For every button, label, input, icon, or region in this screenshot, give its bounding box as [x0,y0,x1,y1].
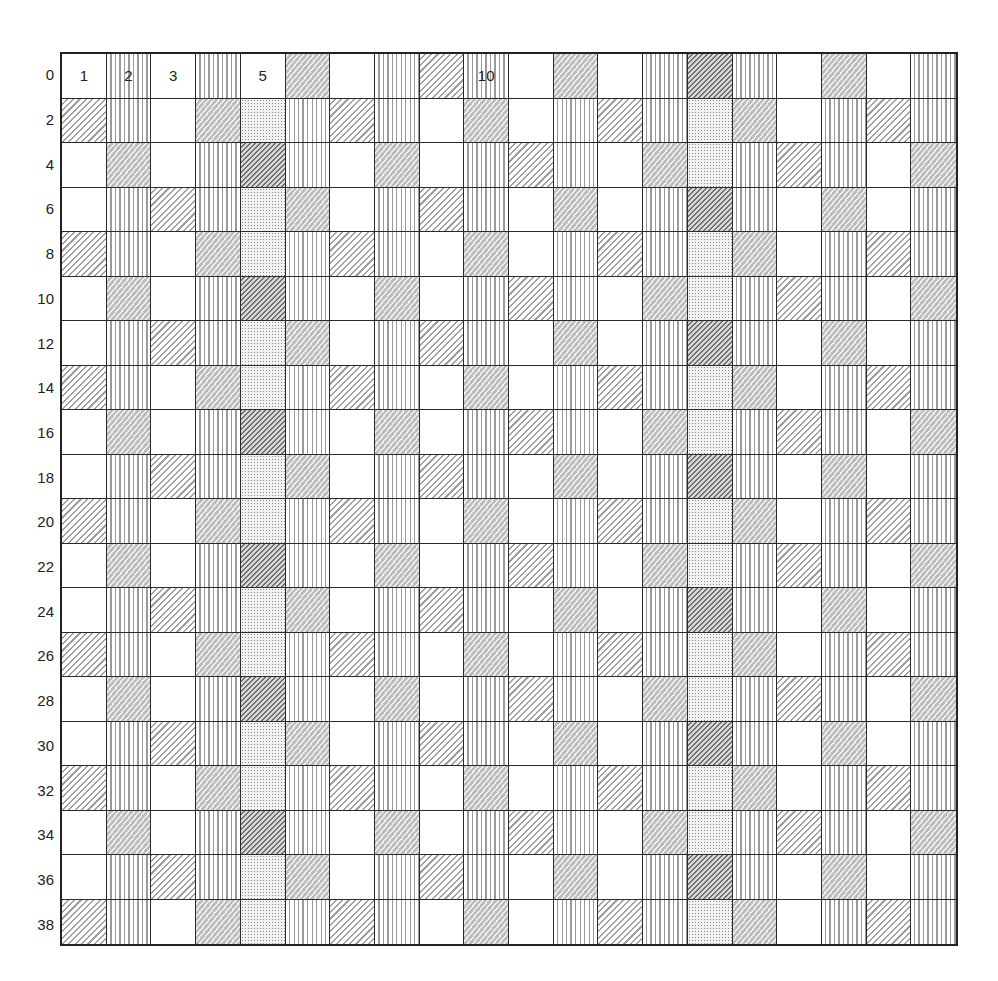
grid-cell-dashed-diagonal-gray [911,277,956,322]
grid-cell-blank [151,99,196,144]
grid-cell-diagonal-lines [330,366,375,411]
grid-cell-blank [777,855,822,900]
grid-cell-dashed-diagonal-gray [464,499,509,544]
grid-cell-vertical-lines [464,544,509,589]
grid-cell-blank [420,811,465,856]
grid-cell-blank [598,588,643,633]
grid-cell-vertical-lines [464,455,509,500]
grid-cell-stipple [688,366,733,411]
grid-cell-blank [867,410,912,455]
grid-cell-vertical-lines [107,366,152,411]
grid-cell-blank [509,722,554,767]
grid-cell-blank [598,855,643,900]
row-label: 28 [0,692,54,709]
grid-cell-blank [867,811,912,856]
grid-cell-dashed-diagonal-gray [733,499,778,544]
grid-cell-dense-diagonal-hatch [688,54,733,99]
grid-cell-vertical-lines [554,633,599,678]
grid-cell-vertical-lines [286,99,331,144]
grid-cell-vertical-lines [643,722,688,767]
grid-cell-vertical-lines [286,766,331,811]
grid-cell-dashed-diagonal-gray [286,855,331,900]
grid-cell-dashed-diagonal-gray [733,766,778,811]
grid-cell-stipple [241,321,286,366]
row-label: 24 [0,602,54,619]
grid-cell-vertical-lines [464,811,509,856]
grid-cell-vertical-lines [911,855,956,900]
grid-cell-diagonal-lines [330,633,375,678]
grid-cell-dashed-diagonal-gray [911,143,956,188]
grid-cell-vertical-lines [911,232,956,277]
grid-cell-blank [777,900,822,945]
grid-cell-dashed-diagonal-gray [196,633,241,678]
grid-cell-blank [867,455,912,500]
grid-cell-dashed-diagonal-gray [196,499,241,544]
grid-cell-dashed-diagonal-gray [196,766,241,811]
grid-cell-stipple [688,410,733,455]
grid-cell-vertical-lines [554,99,599,144]
grid-cell-dense-diagonal-hatch [241,277,286,322]
grid-cell-dashed-diagonal-gray [286,722,331,767]
grid-cell-diagonal-lines [777,410,822,455]
grid-cell-diagonal-lines [867,366,912,411]
grid-cell-blank [420,499,465,544]
grid-cell-blank [598,544,643,589]
grid-cell-blank [867,277,912,322]
grid-cell-diagonal-lines [420,855,465,900]
grid-cell-diagonal-lines [777,143,822,188]
grid-cell-diagonal-lines [509,277,554,322]
grid-cell-dashed-diagonal-gray [286,188,331,233]
grid-cell-stipple [688,143,733,188]
grid-cell-blank: 5 [241,54,286,99]
grid-cell-dashed-diagonal-gray [643,277,688,322]
grid-cell-blank [330,855,375,900]
grid-cell-blank [509,499,554,544]
grid-cell-vertical-lines [196,321,241,366]
grid-cell-blank [509,366,554,411]
grid-cell-vertical-lines [643,99,688,144]
grid-cell-blank [777,722,822,767]
grid-cell-blank [598,188,643,233]
grid-cell-vertical-lines [643,855,688,900]
grid-cell-dense-diagonal-hatch [688,188,733,233]
grid-cell-blank [867,722,912,767]
grid-cell-dashed-diagonal-gray [643,544,688,589]
grid-cell-vertical-lines [733,455,778,500]
grid-cell-vertical-lines [286,143,331,188]
grid-cell-vertical-lines [822,410,867,455]
grid-cell-vertical-lines [911,499,956,544]
grid-cell-vertical-lines [107,588,152,633]
grid-cell-vertical-lines [196,188,241,233]
row-label: 22 [0,558,54,575]
grid-cell-dashed-diagonal-gray [733,633,778,678]
grid-cell-blank [509,766,554,811]
grid-cell-dashed-diagonal-gray [554,588,599,633]
grid-cell-vertical-lines [375,455,420,500]
grid-cell-dashed-diagonal-gray [375,544,420,589]
grid-cell-dense-diagonal-hatch [688,855,733,900]
row-label: 6 [0,200,54,217]
grid-cell-stipple [241,900,286,945]
grid-cell-dashed-diagonal-gray [643,677,688,722]
grid-cell-vertical-lines [554,900,599,945]
grid-cell-dashed-diagonal-gray [107,143,152,188]
grid-cell-vertical-lines [286,499,331,544]
grid-cell-blank [420,366,465,411]
grid-cell-blank [867,54,912,99]
grid-cell-vertical-lines [196,855,241,900]
grid-cell-blank [330,277,375,322]
grid-cell-dashed-diagonal-gray [196,900,241,945]
grid-cell-vertical-lines [822,633,867,678]
grid-cell-vertical-lines [643,499,688,544]
grid-cell-vertical-lines [822,766,867,811]
grid-cell-blank [151,900,196,945]
grid-cell-vertical-lines [911,588,956,633]
grid-cell-dashed-diagonal-gray [733,900,778,945]
grid-cell-dashed-diagonal-gray [643,410,688,455]
grid-cell-blank [420,410,465,455]
grid-cell-diagonal-lines [509,811,554,856]
grid-cell-diagonal-lines [867,499,912,544]
grid-cell-stipple [688,633,733,678]
grid-cell-vertical-lines [375,366,420,411]
grid-cell-vertical-lines: 10 [464,54,509,99]
